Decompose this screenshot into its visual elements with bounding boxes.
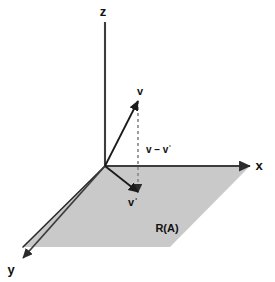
- vector-v-prime-label: vˈ: [128, 196, 138, 208]
- x-axis-label: x: [255, 158, 263, 173]
- vector-v-line: [105, 101, 138, 166]
- v-minus-v-prime-label: v – vˈ: [146, 144, 172, 155]
- range-plane-label: R(A): [155, 222, 179, 234]
- z-axis-label: z: [100, 4, 107, 19]
- linear-algebra-projection-figure: z x y v vˈ v – vˈ R(A): [0, 0, 275, 282]
- figure-canvas: z x y v vˈ v – vˈ R(A): [0, 0, 275, 282]
- y-axis-label: y: [7, 262, 15, 277]
- vector-v-label: v: [137, 85, 144, 97]
